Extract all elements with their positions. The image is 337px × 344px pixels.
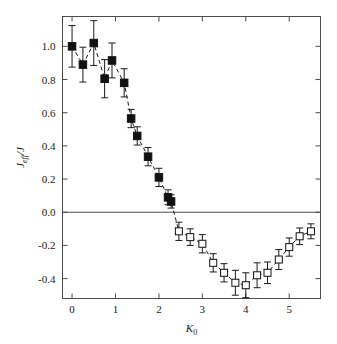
y-tick-label: -0.4 (38, 273, 56, 285)
data-point-open-square (175, 228, 182, 235)
chart-plot: 012345 -0.4-0.20.00.20.40.60.81.0 K0 Jef… (0, 0, 337, 344)
data-point-filled-square (167, 198, 175, 206)
data-point-open-square (286, 244, 293, 251)
x-tick-label: 3 (200, 303, 206, 315)
data-point-filled-square (155, 174, 163, 182)
data-point-filled-square (79, 61, 87, 69)
data-point-open-square (232, 279, 239, 286)
data-point-open-square (242, 282, 249, 289)
data-point-open-square (296, 233, 303, 240)
figure-container: 012345 -0.4-0.20.00.20.40.60.81.0 K0 Jef… (0, 0, 337, 344)
data-point-filled-square (101, 75, 109, 83)
y-tick-label: 0.2 (42, 173, 56, 185)
x-tick-label: 0 (69, 303, 75, 315)
data-point-filled-square (120, 79, 128, 87)
y-tick-label: 0.8 (42, 74, 56, 86)
data-point-open-square (199, 240, 206, 247)
x-tick-label: 5 (286, 303, 292, 315)
y-tick-label: 0.0 (42, 206, 56, 218)
data-point-open-square (307, 228, 314, 235)
y-tick-label: 0.6 (42, 107, 56, 119)
y-tick-label: 1.0 (42, 40, 56, 52)
data-point-filled-square (127, 115, 135, 123)
x-tick-label: 2 (156, 303, 162, 315)
y-tick-label: 0.4 (42, 140, 56, 152)
data-point-filled-square (68, 43, 76, 51)
data-point-filled-square (90, 39, 98, 47)
y-tick-label: -0.2 (38, 239, 55, 251)
data-point-filled-square (133, 132, 141, 140)
data-point-filled-square (108, 57, 116, 65)
x-tick-label: 1 (113, 303, 119, 315)
x-tick-label: 4 (243, 303, 249, 315)
data-point-open-square (275, 256, 282, 263)
data-point-open-square (264, 269, 271, 276)
data-point-filled-square (144, 153, 152, 161)
data-point-open-square (187, 234, 194, 241)
data-point-open-square (210, 259, 217, 266)
data-point-open-square (254, 272, 261, 279)
data-point-open-square (221, 269, 228, 276)
